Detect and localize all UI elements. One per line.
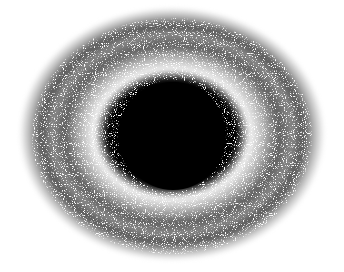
black-disk (121, 82, 225, 190)
image-canvas (0, 0, 344, 272)
